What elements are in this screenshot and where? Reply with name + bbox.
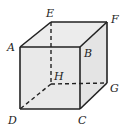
vertex-label-B: B bbox=[83, 47, 92, 60]
face-front bbox=[20, 47, 80, 109]
cube-diagram: A B C D E F G H bbox=[0, 0, 122, 128]
vertex-label-C: C bbox=[78, 114, 87, 127]
vertex-label-H: H bbox=[53, 70, 64, 83]
vertex-label-G: G bbox=[110, 82, 119, 95]
vertex-label-F: F bbox=[110, 13, 119, 26]
vertex-label-E: E bbox=[45, 7, 54, 20]
vertex-label-D: D bbox=[7, 114, 17, 127]
vertex-label-A: A bbox=[6, 41, 15, 54]
